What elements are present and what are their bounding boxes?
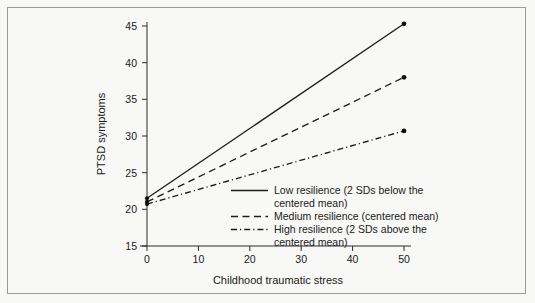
y-axis-ticks xyxy=(142,26,147,246)
series-line-low-resilience xyxy=(147,24,404,199)
x-tick-label-40: 40 xyxy=(347,253,359,265)
x-axis-tick-labels: 0 10 20 30 40 50 xyxy=(144,253,410,265)
legend-entry-medium-resilience[interactable]: Medium resilience (centered mean) xyxy=(231,210,439,222)
legend-label-high-line2: centered mean) xyxy=(274,236,348,248)
series-marker-low-start xyxy=(145,196,149,200)
chart-legend: Low resilience (2 SDs below the centered… xyxy=(231,184,439,248)
y-tick-label-30: 30 xyxy=(125,130,137,142)
y-tick-label-40: 40 xyxy=(125,57,137,69)
y-tick-label-15: 15 xyxy=(125,240,137,252)
chart-canvas: 45 40 35 30 25 20 15 0 10 20 30 40 50 C xyxy=(0,0,535,303)
y-tick-label-20: 20 xyxy=(125,203,137,215)
series-marker-low-end xyxy=(402,21,407,26)
legend-entry-high-resilience[interactable]: High resilience (2 SDs above the centere… xyxy=(231,223,427,248)
y-tick-label-25: 25 xyxy=(125,167,137,179)
series-marker-high-start xyxy=(145,202,149,206)
y-tick-label-35: 35 xyxy=(125,93,137,105)
x-axis-title: Childhood traumatic stress xyxy=(213,274,344,286)
figure-root: 45 40 35 30 25 20 15 0 10 20 30 40 50 C xyxy=(0,0,535,303)
x-tick-label-30: 30 xyxy=(295,253,307,265)
x-tick-label-10: 10 xyxy=(193,253,205,265)
series-line-medium-resilience xyxy=(147,77,404,202)
x-tick-label-50: 50 xyxy=(398,253,410,265)
series-marker-medium-end xyxy=(402,75,407,80)
legend-label-low-line1: Low resilience (2 SDs below the xyxy=(274,184,424,196)
legend-entry-low-resilience[interactable]: Low resilience (2 SDs below the centered… xyxy=(231,184,424,209)
legend-label-high-line1: High resilience (2 SDs above the xyxy=(274,223,427,235)
y-axis-title: PTSD symptoms xyxy=(95,92,107,175)
x-tick-label-0: 0 xyxy=(144,253,150,265)
y-axis-tick-labels: 45 40 35 30 25 20 15 xyxy=(125,20,137,252)
x-tick-label-20: 20 xyxy=(244,253,256,265)
series-marker-high-end xyxy=(402,129,407,134)
y-tick-label-45: 45 xyxy=(125,20,137,32)
legend-label-medium-line1: Medium resilience (centered mean) xyxy=(274,210,439,222)
legend-label-low-line2: centered mean) xyxy=(274,197,348,209)
